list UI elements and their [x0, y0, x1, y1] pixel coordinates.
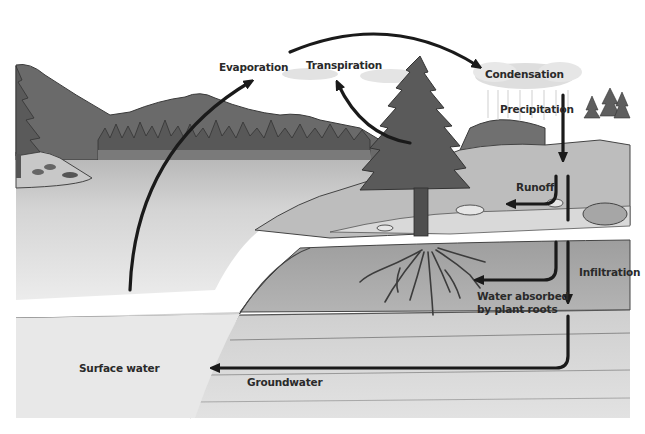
label-transpiration: Transpiration: [306, 59, 382, 71]
label-water-absorbed-line1: Water absorbed: [477, 290, 569, 303]
label-surface-water: Surface water: [79, 362, 159, 374]
label-groundwater: Groundwater: [247, 376, 322, 388]
label-infiltration: Infiltration: [579, 266, 640, 278]
label-condensation: Condensation: [485, 68, 564, 80]
topsoil-layer: [240, 240, 630, 312]
distant-trees: [584, 88, 630, 118]
water-cycle-diagram: Evaporation Transpiration Condensation P…: [0, 0, 645, 434]
label-water-absorbed-line2: by plant roots: [477, 303, 557, 316]
label-runoff: Runoff: [516, 181, 554, 193]
label-evaporation: Evaporation: [219, 61, 288, 73]
label-precipitation: Precipitation: [500, 103, 574, 115]
